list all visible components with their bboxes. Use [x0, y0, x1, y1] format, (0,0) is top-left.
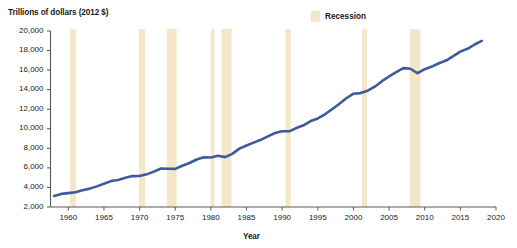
- x-tick-label: 1985: [229, 213, 265, 222]
- recession-band: [70, 29, 76, 207]
- recession-band: [362, 29, 367, 207]
- gdp-recession-chart: Trillions of dollars (2012 $) Year Reces…: [0, 0, 517, 248]
- x-tick-label: 1995: [300, 213, 336, 222]
- x-tick-label: 1975: [157, 213, 193, 222]
- x-tick-label: 1970: [122, 213, 158, 222]
- x-tick-label: 2020: [478, 213, 514, 222]
- recession-bands-group: [70, 29, 420, 207]
- plot-area: [0, 0, 517, 248]
- y-tick-label: 6,000: [2, 162, 44, 171]
- x-tick-label: 1965: [86, 213, 122, 222]
- axis-ticks-group: [47, 31, 496, 211]
- x-tick-label: 2000: [335, 213, 371, 222]
- y-tick-label: 4,000: [2, 182, 44, 191]
- recession-band: [410, 29, 421, 207]
- y-tick-label: 20,000: [2, 26, 44, 35]
- y-tick-label: 18,000: [2, 45, 44, 54]
- recession-band: [222, 29, 232, 207]
- x-tick-label: 2005: [371, 213, 407, 222]
- recession-band: [211, 29, 215, 207]
- recession-band: [139, 29, 145, 207]
- y-tick-label: 8,000: [2, 143, 44, 152]
- x-tick-label: 1980: [193, 213, 229, 222]
- y-tick-label: 12,000: [2, 104, 44, 113]
- y-tick-label: 16,000: [2, 65, 44, 74]
- x-tick-label: 1960: [50, 213, 86, 222]
- y-tick-label: 2,000: [2, 202, 44, 211]
- y-tick-label: 14,000: [2, 84, 44, 93]
- recession-band: [167, 29, 177, 207]
- x-tick-label: 2015: [442, 213, 478, 222]
- recession-band: [286, 29, 291, 207]
- y-tick-label: 10,000: [2, 123, 44, 132]
- x-tick-label: 2010: [407, 213, 443, 222]
- x-tick-label: 1990: [264, 213, 300, 222]
